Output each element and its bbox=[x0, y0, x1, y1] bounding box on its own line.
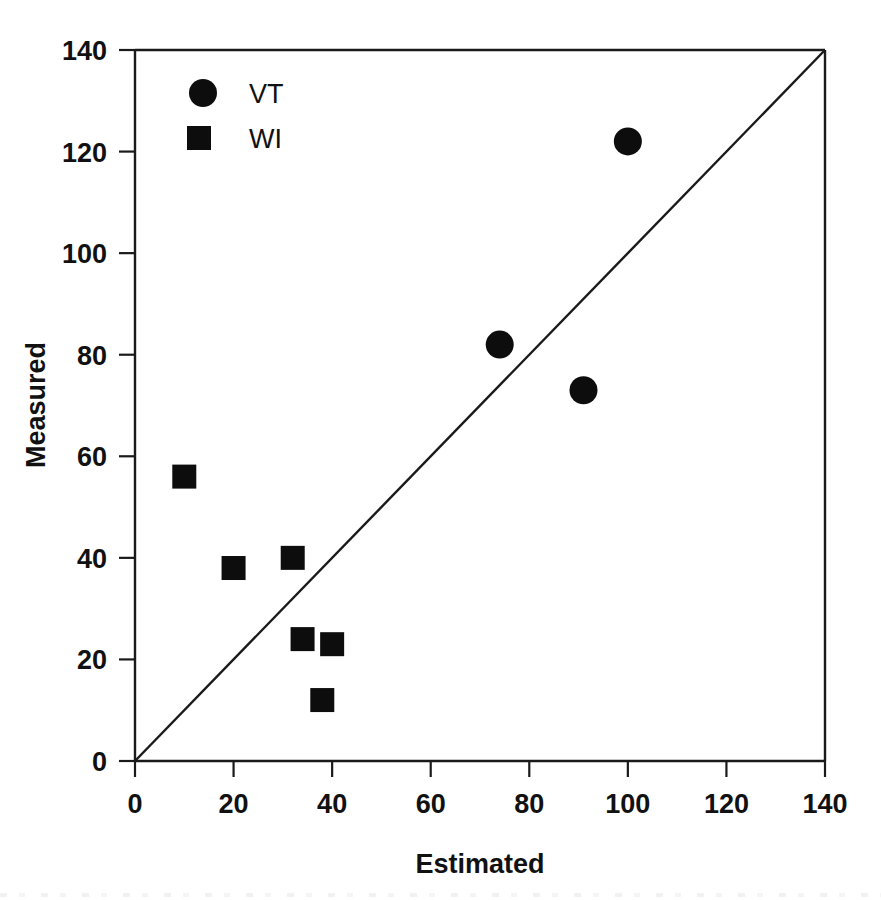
legend-label-wi: WI bbox=[249, 124, 282, 154]
data-point-vt bbox=[570, 376, 598, 404]
x-axis-title: Estimated bbox=[415, 849, 544, 879]
data-point-wi bbox=[222, 556, 246, 580]
x-tick-label: 20 bbox=[219, 789, 249, 819]
series-wi-markers bbox=[172, 465, 344, 712]
reference-line bbox=[135, 50, 825, 761]
data-point-wi bbox=[281, 546, 305, 570]
x-axis-tick-labels: 020406080100120140 bbox=[127, 789, 847, 819]
plot-canvas: 020406080100120140 020406080100120140 VT… bbox=[0, 0, 881, 900]
y-axis-ticks bbox=[119, 50, 135, 761]
data-point-wi bbox=[172, 465, 196, 489]
y-tick-label: 120 bbox=[62, 138, 107, 168]
data-point-vt bbox=[614, 127, 642, 155]
x-tick-label: 100 bbox=[605, 789, 650, 819]
x-tick-label: 80 bbox=[514, 789, 544, 819]
x-tick-label: 40 bbox=[317, 789, 347, 819]
y-tick-label: 20 bbox=[77, 645, 107, 675]
data-point-wi bbox=[291, 627, 315, 651]
x-tick-label: 140 bbox=[802, 789, 847, 819]
y-tick-label: 60 bbox=[77, 442, 107, 472]
legend: VT WI bbox=[187, 79, 284, 154]
series-vt-markers bbox=[486, 127, 642, 404]
identity-reference-line bbox=[135, 50, 825, 761]
scatter-plot-figure: 020406080100120140 020406080100120140 VT… bbox=[0, 0, 881, 900]
legend-label-vt: VT bbox=[249, 79, 284, 109]
legend-marker-square bbox=[187, 126, 211, 150]
x-tick-label: 60 bbox=[416, 789, 446, 819]
x-axis-ticks bbox=[135, 761, 825, 777]
y-tick-label: 0 bbox=[92, 747, 107, 777]
y-tick-label: 80 bbox=[77, 341, 107, 371]
y-tick-label: 40 bbox=[77, 544, 107, 574]
data-point-wi bbox=[310, 688, 334, 712]
y-axis-title: Measured bbox=[21, 342, 51, 468]
y-tick-label: 140 bbox=[62, 36, 107, 66]
x-tick-label: 0 bbox=[127, 789, 142, 819]
scan-artifact-band bbox=[0, 893, 881, 897]
data-point-wi bbox=[320, 632, 344, 656]
data-point-vt bbox=[486, 331, 514, 359]
legend-marker-circle bbox=[189, 79, 217, 107]
x-tick-label: 120 bbox=[704, 789, 749, 819]
y-axis-tick-labels: 020406080100120140 bbox=[62, 36, 107, 777]
y-tick-label: 100 bbox=[62, 239, 107, 269]
